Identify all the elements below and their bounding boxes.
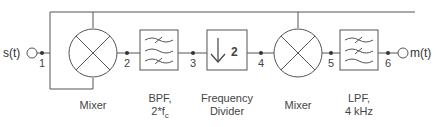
node-label-5: 5 bbox=[328, 57, 334, 69]
bpf-label: BPF, 2*fc bbox=[140, 92, 180, 122]
node-label-3: 3 bbox=[190, 57, 196, 69]
input-label: s(t) bbox=[3, 46, 20, 60]
output-port-icon bbox=[398, 48, 408, 58]
lpf-label: LPF, 4 kHz bbox=[336, 92, 382, 118]
input-port-icon bbox=[27, 48, 37, 58]
divider-factor: 2 bbox=[231, 45, 238, 59]
down-arrow-icon bbox=[211, 38, 225, 62]
node-label-6: 6 bbox=[385, 57, 391, 69]
node-label-4: 4 bbox=[258, 57, 264, 69]
mixer-2-label: Mixer bbox=[273, 99, 323, 112]
mixer-1-label: Mixer bbox=[68, 99, 118, 112]
bpf-block bbox=[140, 30, 178, 70]
divider-label: Frequency Divider bbox=[195, 92, 259, 118]
node-label-2: 2 bbox=[124, 57, 130, 69]
node-label-1: 1 bbox=[39, 57, 45, 69]
output-label: m(t) bbox=[410, 46, 431, 60]
divider-block bbox=[207, 30, 247, 70]
